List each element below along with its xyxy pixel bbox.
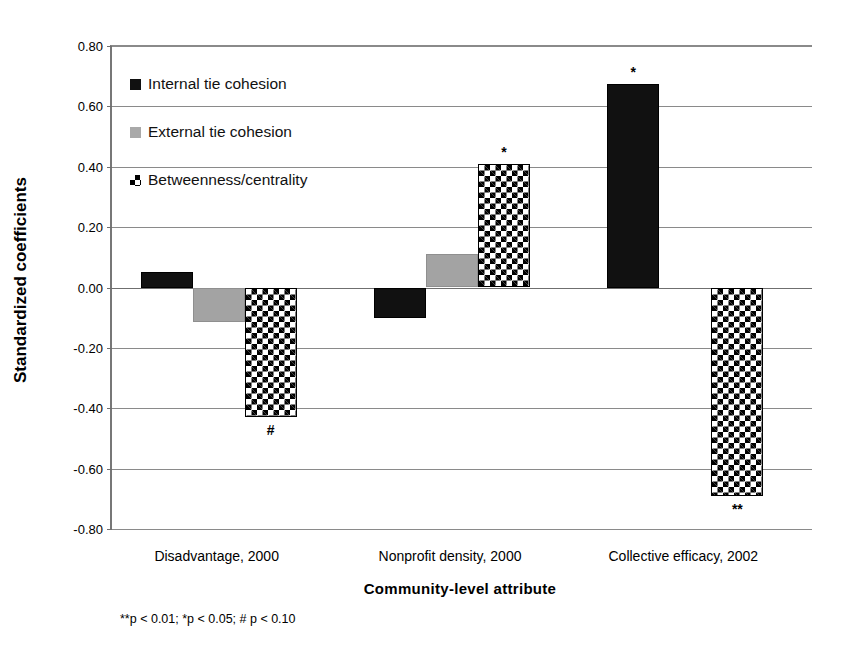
bar [193, 288, 245, 323]
y-axis-tick-label: 0.80 [78, 39, 103, 54]
bar [374, 288, 426, 318]
gridline [112, 227, 812, 228]
legend-label: External tie cohesion [148, 123, 292, 141]
y-axis-tick-label: -0.20 [73, 340, 103, 355]
legend-item-internal-tie-cohesion: Internal tie cohesion [130, 60, 430, 108]
y-axis-title: Standardized coefficients [6, 0, 36, 560]
gridline [112, 348, 812, 349]
significance-marker: ** [711, 502, 763, 516]
bar [141, 272, 193, 287]
significance-marker: * [607, 65, 659, 79]
bar [245, 288, 297, 418]
gridline [112, 469, 812, 470]
significance-footnote: **p < 0.01; *p < 0.05; # p < 0.10 [120, 612, 296, 626]
black-square-icon [130, 79, 141, 90]
legend-item-betweenness-centrality: Betweenness/centrality [130, 156, 430, 204]
legend-label: Betweenness/centrality [148, 171, 307, 189]
y-axis-tick-label: 0.60 [78, 99, 103, 114]
y-axis-tick-label: 0.00 [78, 280, 103, 295]
x-axis-tick-label: Disadvantage, 2000 [154, 548, 279, 564]
x-axis-tick-label: Collective efficacy, 2002 [608, 548, 758, 564]
significance-marker: # [245, 423, 297, 437]
y-axis-tick-label: 0.20 [78, 220, 103, 235]
y-axis-tick-label: -0.40 [73, 401, 103, 416]
y-axis-title-text: Standardized coefficients [11, 177, 31, 383]
y-axis-tick-mark [107, 167, 112, 168]
x-axis-title: Community-level attribute [110, 580, 810, 597]
y-axis-tick-label: -0.60 [73, 461, 103, 476]
significance-marker: * [478, 145, 530, 159]
y-axis-tick-mark [107, 46, 112, 47]
gridline [112, 46, 812, 47]
y-axis-tick-mark [107, 227, 112, 228]
checkered-square-icon [130, 175, 141, 186]
y-axis-tick-mark [107, 288, 112, 289]
bar [478, 164, 530, 288]
bar [607, 84, 659, 288]
gridline [112, 529, 812, 530]
gridline [112, 408, 812, 409]
y-axis-tick-mark [107, 106, 112, 107]
y-axis-tick-label: 0.40 [78, 159, 103, 174]
y-axis-tick-label: -0.80 [73, 522, 103, 537]
x-axis-tick-label: Nonprofit density, 2000 [379, 548, 522, 564]
y-axis-tick-mark [107, 469, 112, 470]
gray-square-icon [130, 127, 141, 138]
chart-legend: Internal tie cohesion External tie cohes… [130, 60, 430, 204]
bar [426, 254, 478, 287]
y-axis-tick-mark [107, 348, 112, 349]
y-axis-tick-mark [107, 529, 112, 530]
legend-label: Internal tie cohesion [148, 75, 287, 93]
y-axis-tick-mark [107, 408, 112, 409]
bar-chart: Standardized coefficients 0.800.600.400.… [0, 0, 848, 660]
bar [711, 288, 763, 496]
legend-item-external-tie-cohesion: External tie cohesion [130, 108, 430, 156]
